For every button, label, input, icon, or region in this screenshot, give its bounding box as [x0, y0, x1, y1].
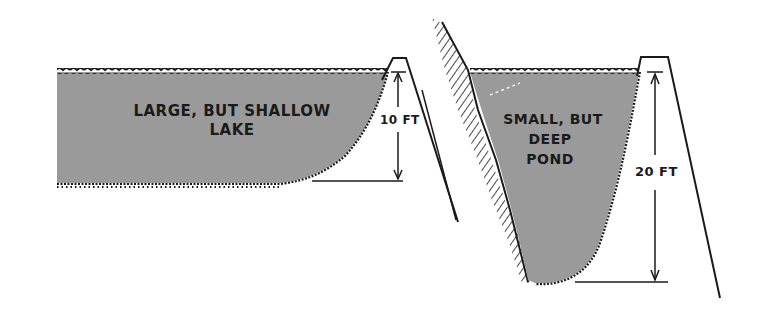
pond-depth-label: 20 FT	[635, 164, 678, 179]
lake-pond-comparison-diagram: 10 FT LARGE, BUT SHALLOW LAKE 20 FT SMAL…	[0, 0, 761, 324]
lake-label-line1: LARGE, BUT SHALLOW	[133, 102, 330, 120]
deep-pond: 20 FT SMALL, BUT DEEP POND	[422, 18, 720, 298]
pond-back-slope	[422, 90, 456, 220]
lake-dam	[382, 58, 458, 222]
shallow-lake: 10 FT LARGE, BUT SHALLOW LAKE	[57, 58, 458, 222]
pond-label-line2: DEEP	[528, 131, 571, 147]
pond-label-line3: POND	[526, 151, 574, 167]
pond-surface-waves	[470, 68, 639, 74]
lake-depth-label: 10 FT	[380, 113, 420, 127]
lake-surface-waves	[57, 68, 387, 74]
lake-label-line2: LAKE	[209, 121, 254, 139]
pond-label-line1: SMALL, BUT	[503, 111, 602, 127]
